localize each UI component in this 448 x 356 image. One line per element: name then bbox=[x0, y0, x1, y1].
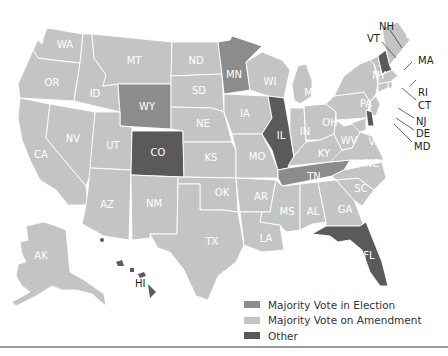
label-AL: AL bbox=[307, 206, 320, 217]
label-RI: RI bbox=[418, 87, 428, 98]
label-SD: SD bbox=[192, 85, 206, 96]
state-CT[interactable] bbox=[378, 82, 388, 92]
state-FL[interactable] bbox=[312, 222, 388, 286]
label-AZ: AZ bbox=[100, 199, 114, 210]
label-VA: VA bbox=[368, 136, 381, 147]
label-MN: MN bbox=[226, 69, 242, 80]
label-AR: AR bbox=[254, 191, 268, 202]
label-WI: WI bbox=[264, 76, 277, 87]
legend-swatch bbox=[244, 301, 260, 308]
label-PA: PA bbox=[360, 98, 372, 109]
label-SC: SC bbox=[354, 183, 367, 194]
state-AK[interactable] bbox=[12, 222, 106, 306]
label-NV: NV bbox=[66, 133, 80, 144]
legend-item-amendment: Majority Vote on Amendment bbox=[244, 313, 422, 329]
legend-label: Majority Vote on Amendment bbox=[268, 314, 422, 326]
label-ID: ID bbox=[90, 88, 101, 99]
label-OR: OR bbox=[45, 77, 60, 88]
label-NM: NM bbox=[146, 198, 162, 209]
label-GA: GA bbox=[338, 204, 353, 215]
label-MI: MI bbox=[304, 87, 316, 98]
label-IL: IL bbox=[277, 130, 286, 141]
label-NC: NC bbox=[365, 158, 379, 169]
label-OH: OH bbox=[322, 117, 337, 128]
label-TN: TN bbox=[306, 171, 321, 182]
label-MT: MT bbox=[127, 55, 143, 66]
legend-swatch bbox=[244, 332, 260, 339]
label-KS: KS bbox=[205, 152, 218, 163]
label-CT: CT bbox=[418, 100, 432, 111]
label-FL: FL bbox=[363, 250, 375, 261]
legend: Majority Vote in Election Majority Vote … bbox=[244, 297, 422, 344]
label-HI: HI bbox=[135, 278, 145, 289]
legend-item-other: Other bbox=[244, 328, 422, 344]
label-MA: MA bbox=[418, 55, 434, 66]
label-KY: KY bbox=[318, 148, 331, 159]
label-OK: OK bbox=[215, 187, 230, 198]
label-ND: ND bbox=[188, 55, 203, 66]
bottom-divider bbox=[0, 346, 448, 348]
label-MS: MS bbox=[280, 206, 295, 217]
label-IA: IA bbox=[240, 108, 250, 119]
legend-label: Other bbox=[268, 330, 298, 342]
label-NH: NH bbox=[379, 21, 394, 32]
label-LA: LA bbox=[260, 233, 273, 244]
legend-swatch bbox=[244, 317, 260, 324]
label-IN: IN bbox=[300, 126, 310, 137]
label-WA: WA bbox=[57, 39, 73, 50]
label-WV: WV bbox=[341, 135, 358, 146]
label-CO: CO bbox=[151, 147, 166, 158]
label-MO: MO bbox=[249, 151, 266, 162]
label-CA: CA bbox=[34, 149, 48, 160]
legend-item-election: Majority Vote in Election bbox=[244, 297, 422, 313]
label-NJ: NJ bbox=[416, 116, 426, 127]
label-NY: NY bbox=[372, 70, 386, 81]
label-MD: MD bbox=[414, 141, 431, 152]
legend-label: Majority Vote in Election bbox=[268, 299, 395, 311]
state-WI[interactable] bbox=[246, 52, 290, 98]
label-VT: VT bbox=[367, 33, 381, 44]
state-HI[interactable] bbox=[100, 238, 156, 298]
state-MI[interactable] bbox=[292, 64, 312, 104]
label-WY: WY bbox=[139, 101, 156, 112]
label-NE: NE bbox=[196, 118, 210, 129]
label-ME: ME bbox=[406, 29, 421, 40]
label-DE: DE bbox=[416, 128, 430, 139]
label-UT: UT bbox=[106, 140, 120, 151]
state-RI[interactable] bbox=[388, 82, 392, 88]
label-AK: AK bbox=[34, 250, 48, 261]
label-TX: TX bbox=[205, 236, 219, 247]
